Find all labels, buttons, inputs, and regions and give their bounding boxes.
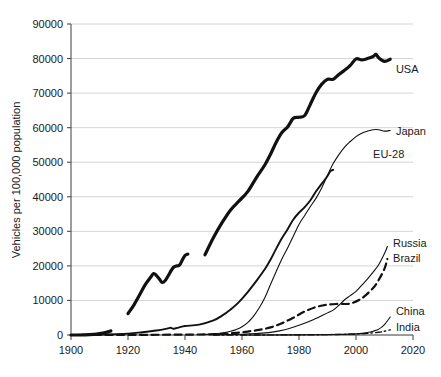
gridlines (71, 24, 413, 335)
y-tick-label: 60000 (32, 122, 63, 134)
series-label-india: India (396, 321, 421, 333)
series-line (214, 247, 388, 335)
y-axis (67, 24, 71, 335)
series-line (205, 54, 390, 254)
series-usa (71, 54, 390, 335)
series-label-china: China (396, 305, 426, 317)
y-axis-title: Vehicles per 100,000 population (10, 102, 22, 259)
series-label-japan: Japan (396, 125, 426, 137)
series-japan (205, 130, 390, 335)
y-tick-label: 80000 (32, 53, 63, 65)
y-tick-label: 0 (57, 329, 63, 341)
series-eu-28 (71, 170, 333, 335)
series-labels: USAJapanEU-28RussiaBrazilChinaIndia (373, 63, 427, 333)
series-line (205, 130, 390, 335)
y-tick-label: 40000 (32, 191, 63, 203)
x-tick-label: 1920 (116, 344, 140, 356)
data-series (71, 54, 390, 335)
series-label-brazil: Brazil (393, 252, 421, 264)
series-label-russia: Russia (393, 237, 428, 249)
line-chart: 0100002000030000400005000060000700008000… (0, 0, 441, 377)
y-tick-label: 50000 (32, 156, 63, 168)
series-russia (214, 247, 388, 335)
series-brazil (71, 259, 387, 335)
y-tick-labels: 0100002000030000400005000060000700008000… (32, 18, 63, 341)
y-tick-label: 30000 (32, 225, 63, 237)
y-tick-label: 20000 (32, 260, 63, 272)
series-china (242, 317, 390, 335)
series-label-usa: USA (396, 63, 419, 75)
x-tick-label: 1940 (173, 344, 197, 356)
series-line (242, 317, 390, 335)
x-tick-labels: 1900192019401960198020002020 (59, 344, 425, 356)
y-tick-label: 90000 (32, 18, 63, 30)
chart-container: 0100002000030000400005000060000700008000… (0, 0, 441, 377)
y-tick-label: 10000 (32, 294, 63, 306)
x-tick-label: 2000 (344, 344, 368, 356)
series-line (71, 259, 387, 335)
x-tick-label: 1960 (230, 344, 254, 356)
series-line (128, 254, 188, 313)
series-label-eu-28: EU-28 (373, 148, 404, 160)
series-line (71, 170, 333, 335)
y-tick-label: 70000 (32, 87, 63, 99)
x-tick-label: 1900 (59, 344, 83, 356)
x-tick-label: 2020 (401, 344, 425, 356)
x-tick-label: 1980 (287, 344, 311, 356)
